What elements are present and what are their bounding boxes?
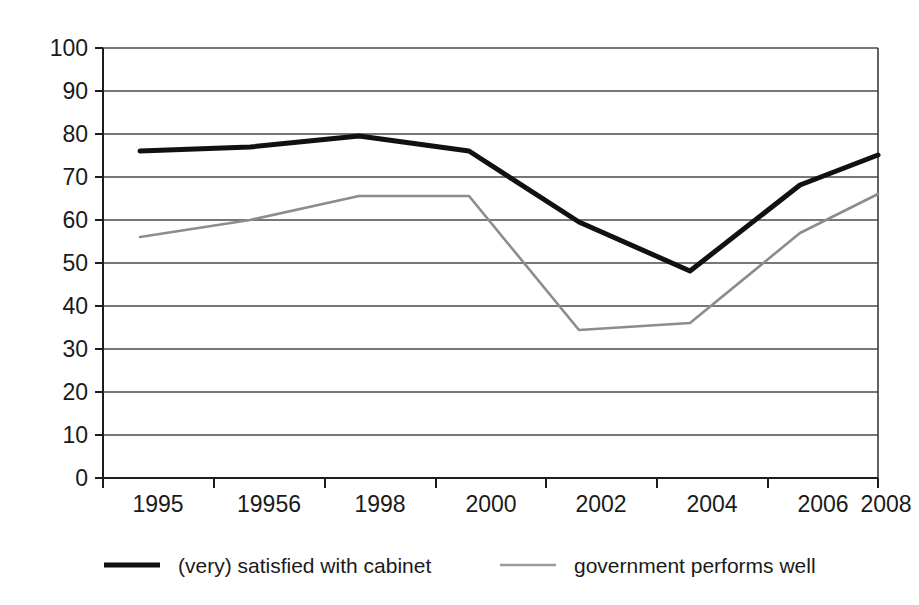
xtick-label-2002: 2002 <box>575 491 626 517</box>
y-axis-tick-labels: 100 90 80 70 60 50 40 30 20 10 0 <box>50 35 88 491</box>
line-chart-figure: 100 90 80 70 60 50 40 30 20 10 0 1995 19… <box>0 0 919 605</box>
xtick-label-2006: 2006 <box>797 491 848 517</box>
ytick-label-20: 20 <box>62 379 88 405</box>
legend: (very) satisfied with cabinet government… <box>104 554 816 577</box>
chart-canvas: 100 90 80 70 60 50 40 30 20 10 0 1995 19… <box>0 0 919 605</box>
xtick-label-1998: 1998 <box>354 491 405 517</box>
xtick-label-19956: 19956 <box>237 491 301 517</box>
ytick-label-40: 40 <box>62 293 88 319</box>
legend-label-government-performs-well: government performs well <box>574 554 816 577</box>
series-line-satisfied-with-cabinet <box>140 136 878 271</box>
ytick-label-70: 70 <box>62 164 88 190</box>
y-axis-ticks <box>95 48 103 478</box>
ytick-label-60: 60 <box>62 207 88 233</box>
legend-label-satisfied-with-cabinet: (very) satisfied with cabinet <box>178 554 431 577</box>
xtick-label-1995: 1995 <box>132 491 183 517</box>
ytick-label-100: 100 <box>50 35 88 61</box>
gridlines-group <box>103 48 878 435</box>
x-axis-ticks <box>103 478 878 488</box>
ytick-label-50: 50 <box>62 250 88 276</box>
series-line-government-performs-well <box>140 194 878 330</box>
xtick-label-2004: 2004 <box>686 491 737 517</box>
x-axis-tick-labels: 1995 19956 1998 2000 2002 2004 2006 2008 <box>132 491 911 517</box>
xtick-label-2000: 2000 <box>465 491 516 517</box>
xtick-label-2008: 2008 <box>860 491 911 517</box>
ytick-label-80: 80 <box>62 121 88 147</box>
ytick-label-10: 10 <box>62 422 88 448</box>
ytick-label-90: 90 <box>62 78 88 104</box>
ytick-label-0: 0 <box>75 465 88 491</box>
ytick-label-30: 30 <box>62 336 88 362</box>
